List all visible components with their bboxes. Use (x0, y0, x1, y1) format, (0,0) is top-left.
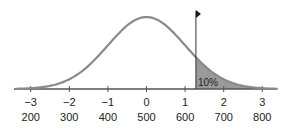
z-tick-label: 3 (259, 97, 265, 108)
normal-curve (15, 17, 277, 89)
z-tick-label: −1 (102, 97, 115, 108)
score-tick-label: 500 (137, 112, 155, 123)
tail-percent-label: 10% (198, 78, 218, 88)
z-tick-label: 0 (143, 97, 149, 108)
z-tick-label: 2 (221, 97, 227, 108)
flag-icon (196, 10, 201, 18)
score-tick-label: 800 (253, 112, 271, 123)
score-tick-label: 200 (22, 112, 40, 123)
z-tick-label: −3 (24, 97, 37, 108)
score-tick-label: 600 (176, 112, 194, 123)
z-tick-label: −2 (63, 97, 76, 108)
score-tick-label: 700 (215, 112, 233, 123)
score-tick-label: 400 (99, 112, 117, 123)
score-tick-label: 300 (60, 112, 78, 123)
z-tick-label: 1 (182, 97, 188, 108)
